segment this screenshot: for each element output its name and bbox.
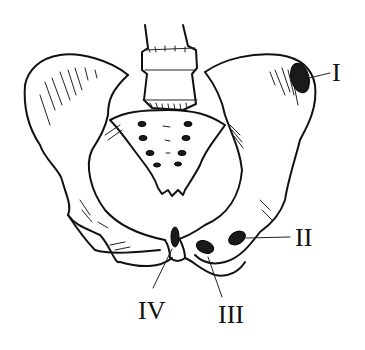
- label-II: II: [295, 225, 312, 251]
- label-IV: IV: [138, 298, 165, 324]
- left-ilium: [25, 54, 165, 262]
- leader-line-IV: [153, 249, 172, 288]
- leader-line-II: [246, 237, 290, 238]
- pelvis-drawing: [0, 0, 365, 350]
- label-III: III: [218, 302, 244, 328]
- sacrum: [110, 110, 225, 196]
- pubic-region: [120, 240, 245, 276]
- lumbar-spine: [142, 25, 197, 110]
- marker-III: [194, 238, 215, 255]
- marker-II: [226, 228, 248, 247]
- marker-IV: [171, 227, 179, 247]
- label-I: I: [332, 60, 341, 86]
